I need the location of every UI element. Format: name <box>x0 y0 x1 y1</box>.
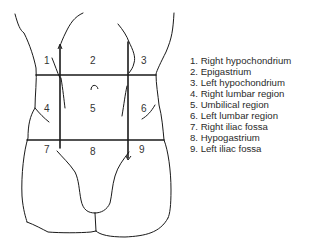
legend-item-7: 7. Right iliac fossa <box>190 121 320 132</box>
legend-item-2: 2. Epigastrium <box>190 66 320 77</box>
legend-item-3: 3. Left hypochondrium <box>190 77 320 88</box>
region-number-7: 7 <box>44 144 50 155</box>
legend-item-4: 4. Right lumbar region <box>190 88 320 99</box>
legend-item-6: 6. Left lumbar region <box>190 110 320 121</box>
region-number-2: 2 <box>90 55 96 66</box>
umbilicus-mark <box>91 85 98 90</box>
abdominal-regions-diagram: 1 2 3 4 5 6 7 8 9 <box>0 0 200 245</box>
legend-item-5: 5. Umbilical region <box>190 99 320 110</box>
region-number-6: 6 <box>141 103 147 114</box>
legend-item-9: 9. Left iliac fossa <box>190 143 320 154</box>
region-number-8: 8 <box>90 146 96 157</box>
region-number-1: 1 <box>44 55 50 66</box>
region-number-5: 5 <box>90 103 96 114</box>
torso-outline <box>0 0 200 245</box>
legend-item-8: 8. Hypogastrium <box>190 132 320 143</box>
legend-item-1: 1. Right hypochondrium <box>190 55 320 66</box>
region-number-3: 3 <box>141 55 147 66</box>
region-legend: 1. Right hypochondrium 2. Epigastrium 3.… <box>190 55 320 154</box>
region-number-9: 9 <box>139 144 145 155</box>
region-number-4: 4 <box>44 103 50 114</box>
